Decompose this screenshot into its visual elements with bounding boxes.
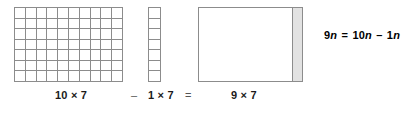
grid-cell <box>69 71 80 82</box>
grid-cell <box>91 8 102 19</box>
grid-cell <box>26 40 37 51</box>
algebraic-equation: 9n = 10n – 1n <box>324 29 400 41</box>
equation-equals-sign: = <box>341 29 350 41</box>
grid-cell <box>80 50 91 61</box>
caption-term-10x7: 10 × 7 <box>55 89 87 101</box>
grid-cell <box>112 29 123 40</box>
grid-cell <box>101 61 112 72</box>
grid-1x7-figure <box>148 7 161 82</box>
grid-cell <box>69 50 80 61</box>
grid-cell <box>37 40 48 51</box>
grid-cell <box>80 71 91 82</box>
grid-cell <box>112 71 123 82</box>
grid-cell <box>149 50 161 61</box>
grid-cell <box>80 19 91 30</box>
grid-cell <box>69 40 80 51</box>
grid-cell <box>26 50 37 61</box>
grid-cell <box>69 8 80 19</box>
grid-cell <box>149 61 161 72</box>
equation-right-second-variable: n <box>393 29 400 41</box>
grid-cell <box>58 71 69 82</box>
grid-cell <box>101 50 112 61</box>
grid-cell <box>26 8 37 19</box>
grid-cell <box>91 50 102 61</box>
grid-cell <box>80 40 91 51</box>
removed-column-strip <box>292 8 302 81</box>
equation-minus-sign: – <box>375 29 383 41</box>
grid-cell <box>101 29 112 40</box>
grid-cell <box>26 19 37 30</box>
grid-cell <box>26 71 37 82</box>
grid-cell <box>58 8 69 19</box>
grid-cell <box>47 8 58 19</box>
grid-cell <box>69 29 80 40</box>
grid-cell <box>58 50 69 61</box>
grid-10x7-figure <box>14 7 123 82</box>
grid-cell <box>101 19 112 30</box>
rect-9x7-figure <box>198 7 303 82</box>
grid-cell <box>101 8 112 19</box>
grid-cell <box>47 40 58 51</box>
grid-cell <box>112 8 123 19</box>
grid-cell <box>101 40 112 51</box>
caption-equals-operator: = <box>185 89 192 101</box>
grid-cell <box>149 40 161 51</box>
grid-cell <box>15 50 26 61</box>
grid-cell <box>149 19 161 30</box>
grid-cell <box>112 40 123 51</box>
grid-cell <box>149 29 161 40</box>
caption-minus-operator: – <box>131 89 137 101</box>
equation-right-first-coefficient: 10 <box>352 29 365 41</box>
grid-cell <box>101 71 112 82</box>
grid-cell <box>37 71 48 82</box>
grid-cell <box>15 29 26 40</box>
grid-cell <box>37 19 48 30</box>
grid-cell <box>47 19 58 30</box>
grid-cell <box>47 50 58 61</box>
grid-cell <box>47 71 58 82</box>
grid-cell <box>91 61 102 72</box>
caption-term-1x7: 1 × 7 <box>148 89 174 101</box>
equation-right-first-variable: n <box>365 29 372 41</box>
grid-cell <box>58 61 69 72</box>
grid-cell <box>112 61 123 72</box>
grid-cell <box>37 8 48 19</box>
grid-cell <box>47 61 58 72</box>
grid-cell <box>47 29 58 40</box>
caption-term-9x7: 9 × 7 <box>231 89 257 101</box>
grid-cell <box>69 61 80 72</box>
equation-left-variable: n <box>330 29 337 41</box>
grid-cell <box>112 50 123 61</box>
grid-cell <box>15 61 26 72</box>
grid-cell <box>91 19 102 30</box>
grid-cell <box>91 71 102 82</box>
grid-cell <box>80 61 91 72</box>
grid-cell <box>26 61 37 72</box>
grid-cell <box>69 19 80 30</box>
grid-cell <box>58 29 69 40</box>
grid-cell <box>80 8 91 19</box>
grid-cell <box>37 29 48 40</box>
grid-cell <box>112 19 123 30</box>
grid-cell <box>58 40 69 51</box>
grid-cell <box>37 50 48 61</box>
grid-cell <box>15 8 26 19</box>
grid-cell <box>15 40 26 51</box>
grid-cell <box>91 40 102 51</box>
grid-cell <box>26 29 37 40</box>
grid-cell <box>80 29 91 40</box>
grid-cell <box>149 8 161 19</box>
grid-cell <box>58 19 69 30</box>
grid-cell <box>91 29 102 40</box>
grid-cell <box>15 71 26 82</box>
grid-cell <box>149 71 161 82</box>
grid-cell <box>15 19 26 30</box>
grid-cell <box>37 61 48 72</box>
